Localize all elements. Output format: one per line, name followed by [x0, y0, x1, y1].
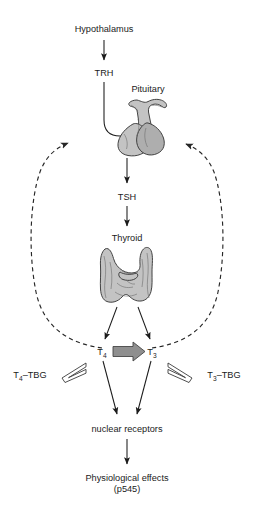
hpt-axis-diagram: Hypothalamus TRH Pituitary TSH Thyroid — [0, 0, 254, 508]
node-label-t3: T3 — [147, 347, 157, 359]
feedback-right-arrow — [152, 144, 223, 348]
edge-thyroid-to-t4 — [105, 307, 117, 339]
feedback-left-arrow — [31, 143, 102, 348]
edge-t4-to-t4tbg-hollow-arrow — [62, 363, 86, 383]
node-label-t4-tbg: T4–TBG — [13, 370, 46, 382]
t3-subscript: 3 — [153, 352, 157, 359]
node-label-nuclear-receptors: nuclear receptors — [92, 424, 163, 434]
node-label-page-reference: (p545) — [114, 484, 141, 494]
edge-t3-to-t3tbg-hollow-arrow — [168, 363, 192, 383]
t3-tbg-tail: –TBG — [217, 370, 241, 380]
t4-subscript: 4 — [103, 352, 107, 359]
diagram-canvas: Hypothalamus TRH Pituitary TSH Thyroid — [0, 0, 254, 508]
node-label-pituitary: Pituitary — [131, 84, 165, 94]
node-label-trh: TRH — [95, 68, 114, 78]
pituitary-gland-illustration — [118, 99, 167, 156]
node-label-tsh: TSH — [118, 192, 136, 202]
node-label-t3-tbg: T3–TBG — [207, 370, 240, 382]
node-label-t4: T4 — [97, 347, 107, 359]
node-label-physiological-effects: Physiological effects — [85, 473, 168, 483]
edge-t3-to-nuclear-receptors — [137, 361, 151, 414]
thyroid-gland-illustration — [100, 247, 152, 302]
edge-t4-to-nuclear-receptors — [103, 361, 117, 414]
node-label-thyroid: Thyroid — [112, 233, 143, 243]
edge-trh-to-pituitary — [104, 82, 130, 136]
t4-tbg-tail: –TBG — [23, 370, 47, 380]
edge-t4-to-t3-block-arrow — [113, 342, 145, 361]
edge-thyroid-to-t3 — [138, 307, 150, 339]
node-label-hypothalamus: Hypothalamus — [75, 24, 134, 34]
